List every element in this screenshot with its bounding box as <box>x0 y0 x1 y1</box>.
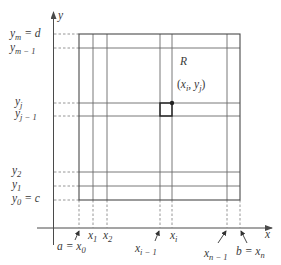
label-pointers <box>75 231 247 243</box>
x-axis-label: x <box>264 228 271 240</box>
x-label-xi-1: xi − 1 <box>134 242 157 257</box>
partition-diagram: y x R (xi, yj) ym = d ym − 1 yj yj − 1 y… <box>0 0 281 265</box>
pointer-xn-1-arrow <box>218 231 226 243</box>
y-label-ym-1: ym − 1 <box>9 41 35 56</box>
x-label-xi: xi <box>169 229 178 244</box>
y-guide-lines <box>54 34 79 200</box>
y-tick-labels: ym = d ym − 1 yj yj − 1 y2 y1 y0 = c <box>9 27 41 207</box>
x-label-x1: x1 <box>87 229 97 244</box>
sample-point <box>170 101 174 105</box>
x-tick-labels: a = x0 x1 x2 xi − 1 xi xn − 1 b = xn <box>57 229 265 262</box>
highlighted-subrectangle <box>160 103 172 116</box>
point-label: (xi, yj) <box>177 78 206 93</box>
x-label-x2: x2 <box>102 229 113 244</box>
pointer-xn-arrow <box>241 231 247 243</box>
y-label-y0: y0 = c <box>11 192 40 207</box>
x-guide-lines <box>79 200 240 228</box>
region-rectangle <box>79 34 240 200</box>
x-label-xn-1: xn − 1 <box>203 247 228 262</box>
y-label-yj-1: yj − 1 <box>14 107 37 122</box>
region-label: R <box>179 55 187 67</box>
y-label-y1: y1 <box>11 178 21 193</box>
x-label-x0: a = x0 <box>57 240 86 255</box>
pointer-xi-1-arrow <box>155 231 159 241</box>
y-axis-label: y <box>57 9 64 22</box>
y-label-y2: y2 <box>11 164 22 179</box>
x-label-xn: b = xn <box>236 245 265 260</box>
y-label-ym: ym = d <box>9 27 41 42</box>
pointer-x0-arrow <box>75 231 79 240</box>
partition-grid <box>79 34 240 200</box>
